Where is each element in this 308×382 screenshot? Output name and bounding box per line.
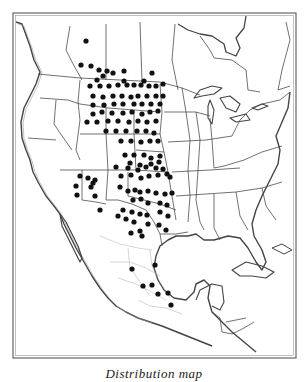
locality-dot [125,188,130,193]
north-america-map [12,12,297,359]
locality-dot [140,283,145,288]
locality-dot [132,187,137,192]
locality-dot [88,63,93,68]
locality-dot [149,282,154,287]
locality-dot [94,119,99,124]
locality-dot [148,155,153,160]
locality-dot [155,138,160,143]
locality-dot [144,119,149,124]
locality-dot [141,78,146,83]
locality-dot [168,302,173,307]
locality-dot [157,209,162,214]
locality-dot [118,173,123,178]
locality-dot [128,94,133,99]
locality-dot [131,101,136,106]
locality-dot [155,291,160,296]
locality-dot [129,209,134,214]
locality-dot [122,152,127,157]
locality-dot [110,93,115,98]
locality-dot [145,200,150,205]
locality-dot [138,175,143,180]
locality-dot [134,128,139,133]
locality-dot [149,70,154,75]
locality-dot [105,118,110,123]
locality-dot [137,189,142,194]
locality-dot [125,165,130,170]
locality-dot [90,102,95,107]
locality-dot [147,109,152,114]
locality-dot [92,177,97,182]
locality-dot [111,101,116,106]
locality-dot [131,219,136,224]
locality-dot [113,164,118,169]
map-outer-border [13,13,296,358]
locality-dot [131,82,136,87]
locality-dot [139,111,144,116]
locality-dot [160,166,165,171]
locality-dot [129,109,134,114]
locality-dot [120,110,125,115]
locality-dot [83,38,88,43]
locality-dot [139,233,144,238]
locality-dot [146,173,151,178]
locality-dot [128,138,133,143]
locality-dot [153,165,158,170]
locality-dot [127,160,132,165]
locality-dot [78,62,83,67]
locality-dot [160,93,165,98]
locality-dot [144,93,149,98]
locality-dot [100,94,105,99]
locality-dot [104,68,109,73]
locality-dot [129,266,134,271]
locality-dot [97,83,102,88]
locality-dot [115,213,120,218]
locality-dot [123,216,128,221]
locality-dot [137,162,142,167]
locality-dot [144,212,149,217]
locality-dot [90,93,95,98]
locality-dot [153,190,158,195]
locality-dot [124,82,129,87]
locality-dot [128,172,133,177]
locality-dot [126,119,131,124]
locality-dot [85,175,90,180]
locality-dot [131,152,136,157]
locality-dot [115,82,120,87]
locality-dot [146,83,151,88]
locality-dot [153,93,158,98]
locality-dot [157,101,162,106]
locality-dot [153,118,158,123]
locality-dot [155,108,160,113]
locality-dot [106,83,111,88]
locality-dot [162,191,167,196]
map-frame [12,12,297,359]
locality-dot [74,192,79,197]
locality-dot [135,167,140,172]
locality-dot [117,184,122,189]
locality-dot [109,110,114,115]
locality-dot [139,101,144,106]
locality-dot [147,138,152,143]
locality-dot [115,118,120,123]
locality-dot [164,202,169,207]
locality-dot [92,193,97,198]
locality-dot [156,159,161,164]
locality-dot [167,174,172,179]
locality-dot [103,128,108,133]
locality-dot [152,262,157,267]
locality-dot [130,197,135,202]
locality-dot [155,172,160,177]
locality-dot [165,290,170,295]
locality-dot [165,213,170,218]
locality-dot [145,221,150,226]
locality-dot [123,128,128,133]
locality-dot [77,173,82,178]
locality-dot [135,118,140,123]
locality-dot [153,83,158,88]
locality-dot [100,73,105,78]
locality-dot [121,68,126,73]
locality-dot [156,222,161,227]
locality-dot [101,102,106,107]
locality-dot [157,200,162,205]
locality-dot [90,111,95,116]
